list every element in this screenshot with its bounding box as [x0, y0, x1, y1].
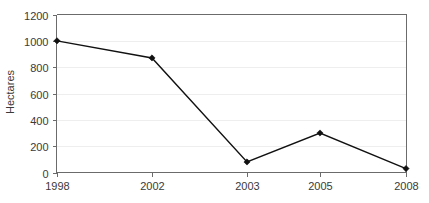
x-tick-label: 2008: [394, 180, 418, 192]
y-tick-label: 600: [30, 89, 48, 101]
y-tick-label: 0: [42, 168, 48, 180]
y-tick-label: 1000: [24, 36, 48, 48]
x-tick-label: 2002: [140, 180, 164, 192]
x-tick-label: 1998: [45, 180, 69, 192]
y-tick-label: 800: [30, 62, 48, 74]
x-tick-label: 2003: [235, 180, 259, 192]
line-chart: 020040060080010001200 199820022003200520…: [0, 0, 429, 203]
chart-canvas: 020040060080010001200 199820022003200520…: [0, 0, 429, 203]
y-tick-label: 1200: [24, 10, 48, 22]
y-tick-label: 400: [30, 115, 48, 127]
x-tick-label: 2005: [308, 180, 332, 192]
y-axis-title: Hectares: [4, 69, 16, 114]
y-tick-label: 200: [30, 141, 48, 153]
